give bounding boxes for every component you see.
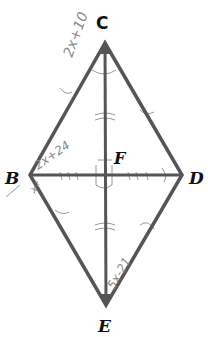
diagonals	[30, 43, 182, 305]
vertex-label-d: D	[188, 168, 204, 188]
vertex-label-b: B	[4, 168, 19, 188]
handwritten-marks	[6, 70, 166, 230]
vertex-label-c: C	[96, 13, 108, 33]
annotation-bc: 2x+24	[32, 138, 73, 172]
annotation-de: 5x-21	[104, 255, 133, 292]
rhombus-diagram: C B D F E 2x+10 2x+24 x² 5x-21	[0, 0, 208, 337]
intersection-label-f: F	[113, 149, 127, 168]
vertex-label-e: E	[97, 316, 112, 336]
annotation-ce: 2x+10	[60, 10, 91, 59]
